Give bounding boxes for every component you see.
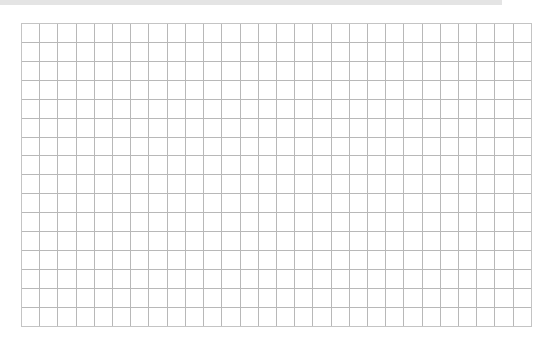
- top-scroll-bar: [0, 0, 502, 5]
- page: [0, 0, 551, 345]
- grid-canvas: [21, 23, 532, 327]
- grid-lines: [21, 23, 532, 327]
